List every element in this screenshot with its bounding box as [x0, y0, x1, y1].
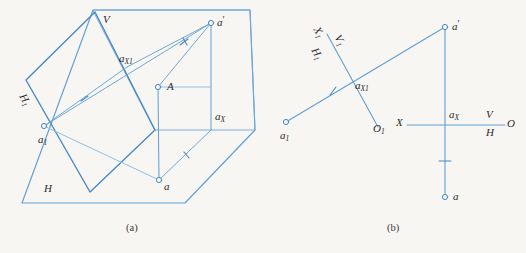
label-point-a-prime-a: a′ — [217, 15, 225, 28]
caption-a: (a) — [126, 222, 138, 233]
point-marker-a-prime-b — [442, 24, 447, 29]
label-point-ax1-b: aX1 — [355, 80, 369, 92]
label-axis-x-b: X — [396, 117, 403, 128]
label-v-plane: V — [103, 14, 110, 25]
ray-a1-to-ax1 — [44, 67, 127, 126]
point-marker-a-prime — [208, 20, 213, 25]
caption-b: (b) — [387, 222, 399, 233]
v-plane-outline — [93, 10, 255, 130]
label-point-ax-b: aX — [449, 109, 459, 121]
label-axis-v-b: V — [486, 109, 493, 120]
h1-plane-outline — [26, 12, 155, 192]
label-axis-o1: O1 — [373, 123, 385, 135]
label-point-a1-b: a1 — [280, 130, 289, 142]
point-marker-a — [156, 177, 161, 182]
point-marker-a-b — [442, 194, 447, 199]
label-h-plane: H — [44, 183, 52, 194]
h-plane-outline — [22, 10, 255, 203]
ray-A-to-aprime — [158, 23, 211, 87]
label-axis-o-b: O — [507, 118, 515, 129]
vertical-A-to-a — [158, 87, 159, 180]
panel-a-drawing — [22, 10, 255, 203]
point-marker-a1-b — [283, 119, 288, 124]
point-marker-a1 — [41, 123, 46, 128]
ray-a1-to-a — [44, 126, 159, 180]
label-point-a-big: A — [167, 81, 174, 92]
label-point-a1-a: a1 — [38, 134, 47, 146]
label-point-a-lower-a: a — [164, 181, 170, 192]
ray-a1-to-aprime-b — [286, 27, 445, 122]
label-point-a-prime-b: a′ — [452, 19, 460, 32]
descriptive-geometry-figure — [0, 0, 526, 253]
label-axis-h-b: H — [486, 127, 494, 138]
label-point-ax-a: aX — [215, 111, 225, 123]
ray-ax1-to-aprime — [127, 23, 211, 67]
point-marker-A — [155, 84, 160, 89]
label-point-ax1-a: aX1 — [119, 53, 133, 65]
label-point-a-b: a — [453, 191, 459, 202]
ray-a-to-ax — [159, 130, 211, 180]
